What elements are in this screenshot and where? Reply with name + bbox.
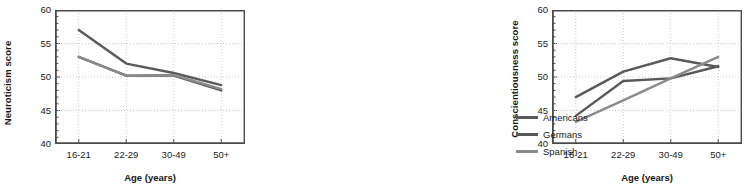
legend-label: Americans [543, 112, 588, 123]
plot-area-left [55, 10, 245, 144]
legend-swatch-icon [516, 150, 538, 153]
x-tick-label: 16-21 [52, 149, 106, 160]
x-axis-title-right: Age (years) [552, 172, 742, 183]
chart-panel-conscientiousness: Conscientiousness score Age (years) 4045… [252, 0, 500, 191]
y-tick-label: 55 [526, 38, 548, 49]
x-tick-label: 50+ [691, 149, 745, 160]
series-line-germans [79, 57, 222, 91]
x-tick-label: 30-49 [147, 149, 201, 160]
legend-label: Germans [543, 129, 582, 140]
legend-swatch-icon [516, 116, 538, 119]
legend-item-spanish: Spanish [516, 143, 602, 160]
chart-legend: AmericansGermansSpanish [516, 109, 602, 160]
x-tick-label: 22-29 [99, 149, 153, 160]
x-tick-label: 30-49 [644, 149, 698, 160]
legend-swatch-icon [516, 133, 538, 136]
x-tick-label: 50+ [194, 149, 248, 160]
series-line-americans [576, 58, 719, 97]
y-tick-label: 50 [29, 71, 51, 82]
y-tick-label: 55 [29, 38, 51, 49]
y-tick-label: 60 [29, 4, 51, 15]
line-chart-left [55, 10, 245, 144]
y-tick-label: 60 [526, 4, 548, 15]
x-axis-title-left: Age (years) [55, 172, 245, 183]
chart-panel-neuroticism: Neuroticism score Age (years) 4045505560… [0, 0, 252, 191]
y-axis-title-left: Neuroticism score [2, 8, 16, 158]
y-tick-label: 50 [526, 71, 548, 82]
x-tick-label: 22-29 [596, 149, 650, 160]
y-tick-label: 45 [29, 105, 51, 116]
legend-item-americans: Americans [516, 109, 602, 126]
legend-label: Spanish [543, 146, 577, 157]
y-tick-label: 40 [29, 138, 51, 149]
legend-item-germans: Germans [516, 126, 602, 143]
